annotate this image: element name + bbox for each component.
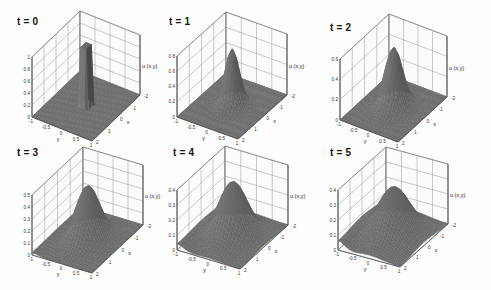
z-tick-label: 0.2 — [169, 99, 176, 104]
z-tick-label: 0.5 — [24, 193, 31, 198]
x-tick-label: -2 — [452, 223, 457, 228]
z-tick-label: 0.4 — [330, 188, 337, 193]
panel-t3: 00.10.20.30.40.5-1-0.500.51210-1-2yxu (x… — [0, 145, 164, 290]
surface-plot: 00.10.20.30.4-1-0.500.51210-1-2yxu (x,y) — [163, 145, 327, 290]
x-tick-label: 1 — [414, 130, 417, 135]
x-tick-label: 0 — [120, 117, 123, 122]
y-tick-label: 0.5 — [380, 265, 387, 270]
z-axis-label: u (x,y) — [142, 63, 157, 69]
y-tick-label: -1 — [174, 252, 179, 257]
z-tick-label: 0.2 — [330, 218, 337, 223]
x-tick-label: -2 — [291, 94, 296, 99]
y-tick-label: 0.5 — [73, 137, 80, 142]
y-tick-label: -1 — [174, 119, 179, 124]
x-tick-label: 0 — [428, 245, 431, 250]
x-tick-label: -1 — [439, 107, 444, 112]
y-tick-label: -0.5 — [350, 128, 358, 133]
x-tick-label: -1 — [280, 235, 285, 240]
z-tick-label: 0.4 — [169, 188, 176, 193]
x-tick-label: 2 — [244, 268, 247, 273]
y-tick-label: 1 — [238, 271, 241, 276]
z-tick-label: 0.3 — [24, 217, 31, 222]
z-axis-label: u (x,y) — [449, 65, 464, 71]
surface-plot: 00.10.20.30.40.5-1-0.500.51210-1-2yxu (x… — [0, 145, 164, 290]
z-axis-label: u (x,y) — [289, 63, 304, 69]
x-axis-label: x — [435, 247, 438, 253]
x-tick-label: 1 — [109, 260, 112, 265]
y-tick-label: 0.5 — [379, 139, 386, 144]
z-axis-label: u (x,y) — [145, 193, 160, 199]
z-tick-label: 0.4 — [332, 77, 339, 82]
y-tick-label: -0.5 — [349, 256, 357, 261]
x-tick-label: 2 — [404, 266, 407, 271]
y-tick-label: 1 — [90, 275, 93, 280]
z-tick-label: 0.4 — [169, 84, 176, 89]
y-tick-label: -0.5 — [42, 125, 50, 130]
x-tick-label: -1 — [132, 106, 137, 111]
x-tick-label: 0 — [267, 116, 270, 121]
z-tick-label: 0.8 — [24, 67, 31, 72]
figure: 00.20.40.60.81-1-0.500.51210-1-2yxu (x,y… — [0, 0, 491, 290]
x-tick-label: 0 — [122, 248, 125, 253]
x-axis-label: x — [433, 121, 436, 127]
z-tick-label: 0.2 — [169, 218, 176, 223]
x-tick-label: 1 — [256, 257, 259, 262]
panel-t2: 00.20.40.6-1-0.500.51210-1-2yxu (x,y) t … — [320, 0, 484, 145]
y-tick-label: 1 — [398, 269, 401, 274]
y-axis-label: y — [203, 267, 206, 273]
panel-t1: 00.20.40.60.8-1-0.500.51210-1-2yxu (x,y)… — [163, 0, 327, 145]
x-tick-label: -2 — [147, 224, 152, 229]
panel-title: t = 5 — [330, 147, 351, 158]
x-axis-label: x — [127, 119, 130, 125]
y-tick-label: 0.5 — [73, 271, 80, 276]
x-axis-label: x — [275, 248, 278, 254]
y-tick-label: -1 — [335, 252, 340, 257]
y-tick-label: 0 — [60, 266, 63, 271]
y-axis-label: y — [202, 135, 205, 141]
y-tick-label: 0 — [60, 131, 63, 136]
z-tick-label: 0.6 — [169, 69, 176, 74]
z-tick-label: 0.6 — [332, 57, 339, 62]
y-tick-label: -0.5 — [187, 125, 195, 130]
x-tick-label: 2 — [96, 272, 99, 277]
x-tick-label: -2 — [144, 94, 149, 99]
y-tick-label: -1 — [29, 257, 34, 262]
y-tick-label: -1 — [29, 119, 34, 124]
x-tick-label: -1 — [134, 236, 139, 241]
y-tick-label: 0.5 — [219, 136, 226, 141]
x-tick-label: 1 — [254, 127, 257, 132]
x-axis-label: x — [128, 250, 131, 256]
x-tick-label: -2 — [292, 224, 297, 229]
surface-plot: 00.10.20.30.4-1-0.500.51210-1-2yxu (x,y) — [320, 145, 484, 290]
z-tick-label: 0.2 — [24, 229, 31, 234]
x-tick-label: -1 — [440, 234, 445, 239]
panel-title: t = 1 — [169, 16, 190, 27]
y-tick-label: -0.5 — [42, 262, 50, 267]
z-axis-label: u (x,y) — [290, 193, 305, 199]
z-tick-label: 0.1 — [24, 241, 31, 246]
y-tick-label: 0 — [367, 133, 370, 138]
z-axis-label: u (x,y) — [450, 192, 465, 198]
panel-title: t = 4 — [173, 147, 194, 158]
z-tick-label: 0.2 — [332, 97, 339, 102]
x-tick-label: 1 — [108, 129, 111, 134]
y-tick-label: -1 — [337, 122, 342, 127]
z-tick-label: 1 — [27, 55, 30, 60]
z-tick-label: 0.1 — [330, 233, 337, 238]
panel-title: t = 3 — [17, 147, 38, 158]
x-tick-label: 1 — [416, 255, 419, 260]
x-tick-label: -2 — [451, 96, 456, 101]
y-axis-label: y — [364, 266, 367, 272]
y-tick-label: 0 — [205, 130, 208, 135]
z-tick-label: 0.4 — [24, 205, 31, 210]
x-tick-label: 2 — [242, 138, 245, 143]
x-tick-label: 0 — [427, 119, 430, 124]
x-tick-label: -1 — [279, 105, 284, 110]
y-tick-label: 0 — [206, 262, 209, 267]
panel-title: t = 0 — [17, 16, 38, 27]
y-axis-label: y — [57, 136, 60, 142]
panel-title: t = 2 — [330, 22, 351, 33]
y-axis-label: y — [364, 138, 367, 144]
y-axis-label: y — [57, 271, 60, 277]
z-tick-label: 0.3 — [330, 203, 337, 208]
